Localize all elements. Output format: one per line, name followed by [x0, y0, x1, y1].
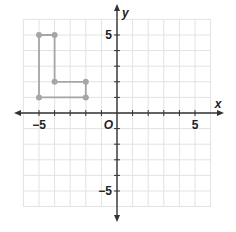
vertex-point — [52, 79, 58, 85]
vertex-point — [52, 32, 58, 38]
coordinate-plane: −555−5Oxy — [0, 0, 236, 232]
origin-label: O — [104, 118, 114, 132]
y-tick-label: −5 — [98, 184, 112, 198]
x-axis-arrow-left-icon — [14, 110, 21, 116]
axes — [14, 4, 224, 222]
x-tick-label: 5 — [192, 118, 199, 132]
y-axis-arrow-down-icon — [114, 215, 120, 222]
x-axis-label: x — [214, 97, 223, 111]
x-tick-label: −5 — [32, 118, 46, 132]
y-tick-label: 5 — [105, 28, 112, 42]
vertex-point — [83, 94, 89, 100]
vertex-point — [83, 79, 89, 85]
vertex-point — [36, 32, 42, 38]
y-axis-arrow-up-icon — [114, 4, 120, 11]
y-axis-label: y — [121, 6, 130, 20]
vertex-point — [36, 94, 42, 100]
